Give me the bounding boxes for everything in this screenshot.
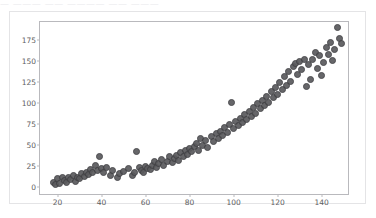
scatter-point bbox=[307, 76, 314, 83]
x-axis-tick-mark bbox=[145, 194, 146, 197]
scatter-point bbox=[287, 78, 294, 85]
x-axis-tick-mark bbox=[57, 194, 58, 197]
screenshot-root: — ——— —— ———— —— ——— 0255075100125150175… bbox=[0, 0, 376, 218]
scatter-point bbox=[314, 65, 321, 72]
x-axis-tick-label: 120 bbox=[270, 198, 284, 207]
x-axis-tick-label: 60 bbox=[141, 198, 151, 207]
y-axis-tick-mark bbox=[37, 187, 40, 188]
x-axis-tick-label: 140 bbox=[314, 198, 328, 207]
x-axis-tick-mark bbox=[189, 194, 190, 197]
x-axis-tick-mark bbox=[101, 194, 102, 197]
y-axis-tick-label: 50 bbox=[26, 141, 36, 150]
scatter-point bbox=[228, 99, 235, 106]
scatter-point bbox=[298, 66, 305, 73]
scatter-point bbox=[320, 59, 327, 66]
x-axis-tick-mark bbox=[321, 194, 322, 197]
scatter-point bbox=[338, 40, 345, 47]
plot-axes: 025507510012515017520406080100120140 bbox=[39, 21, 349, 195]
y-axis-tick-mark bbox=[37, 102, 40, 103]
x-axis-tick-label: 100 bbox=[226, 198, 240, 207]
scatter-point bbox=[133, 148, 140, 155]
scatter-point bbox=[318, 72, 325, 79]
y-axis-tick-mark bbox=[37, 166, 40, 167]
y-axis-tick-mark bbox=[37, 145, 40, 146]
scatter-point bbox=[96, 153, 103, 160]
y-axis-tick-label: 175 bbox=[22, 35, 36, 44]
y-axis-tick-mark bbox=[37, 81, 40, 82]
scatter-point bbox=[204, 144, 211, 151]
y-axis-tick-label: 150 bbox=[22, 56, 36, 65]
scatter-point bbox=[329, 57, 336, 64]
x-axis-tick-label: 40 bbox=[97, 198, 107, 207]
scatter-figure: 025507510012515017520406080100120140 bbox=[9, 11, 366, 204]
clipped-top-text: — ——— —— ———— —— ——— bbox=[0, 0, 376, 7]
y-axis-tick-label: 75 bbox=[26, 120, 36, 129]
y-axis-tick-label: 100 bbox=[22, 98, 36, 107]
scatter-point bbox=[334, 24, 341, 31]
x-axis-tick-mark bbox=[233, 194, 234, 197]
x-axis-tick-mark bbox=[277, 194, 278, 197]
x-axis-tick-label: 80 bbox=[185, 198, 195, 207]
y-axis-tick-mark bbox=[37, 124, 40, 125]
y-axis-tick-mark bbox=[37, 39, 40, 40]
y-axis-tick-mark bbox=[37, 60, 40, 61]
scatter-point bbox=[331, 46, 338, 53]
y-axis-tick-label: 0 bbox=[31, 183, 36, 192]
scatter-point bbox=[327, 39, 334, 46]
y-axis-tick-label: 25 bbox=[26, 162, 36, 171]
y-axis-tick-label: 125 bbox=[22, 77, 36, 86]
plot-area bbox=[40, 22, 348, 194]
x-axis-tick-label: 20 bbox=[53, 198, 63, 207]
scatter-point bbox=[303, 83, 310, 90]
